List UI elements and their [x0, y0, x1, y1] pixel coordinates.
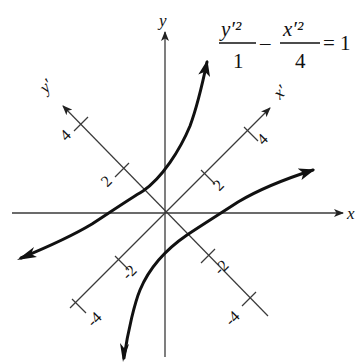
- x-axis-label: x: [346, 204, 355, 223]
- y-prime-tick-neg4: -4: [221, 307, 242, 328]
- y-prime-axis-label: y′: [34, 75, 57, 98]
- hyperbola-diagram: 2 4 -2 -4 2 4 -2 -4 x y x′ y′ y′² 1 – x′…: [0, 0, 361, 364]
- equation-numerator-left: y′²: [219, 17, 242, 41]
- y-prime-tick-2: 2: [97, 172, 115, 190]
- x-prime-axis: [70, 108, 270, 308]
- x-prime-tick-neg4: -4: [83, 308, 104, 329]
- x-prime-tick-neg2: -2: [118, 261, 139, 282]
- equation: y′² 1 – x′² 4 = 1: [219, 17, 351, 73]
- equation-denominator-left: 1: [233, 49, 244, 73]
- x-prime-axis-label: x′: [269, 81, 291, 103]
- equation-denominator-right: 4: [295, 49, 306, 73]
- x-prime-tick-2: 2: [209, 176, 227, 194]
- equation-equals: = 1: [323, 31, 351, 55]
- y-axis-label: y: [157, 11, 167, 30]
- x-prime-tick-4: 4: [253, 130, 271, 148]
- equation-numerator-right: x′²: [282, 17, 304, 41]
- y-prime-tick-4: 4: [56, 126, 74, 144]
- equation-minus: –: [259, 31, 271, 55]
